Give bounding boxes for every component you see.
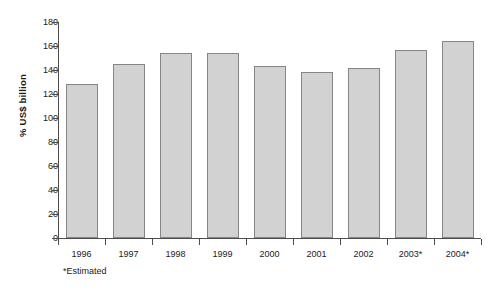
y-axis-title: % US$ billion — [17, 46, 28, 166]
x-axis-tick-mark — [340, 239, 341, 245]
y-axis-tick-mark — [52, 46, 58, 47]
x-axis-tick-label: 1998 — [152, 249, 199, 259]
x-axis-tick-mark — [105, 239, 106, 245]
y-axis-tick: 180 — [0, 22, 58, 23]
x-axis-tick-label: 1997 — [105, 249, 152, 259]
x-axis-tick-mark — [58, 239, 59, 245]
bar-chart: % US$ billion 020406080100120140160180 1… — [0, 0, 501, 291]
bar — [113, 64, 145, 238]
y-axis-tick: 100 — [0, 118, 58, 119]
y-axis-tick-mark — [52, 214, 58, 215]
y-axis-tick-mark — [52, 142, 58, 143]
x-axis-tick-mark — [434, 239, 435, 245]
y-axis-tick: 120 — [0, 94, 58, 95]
x-axis-tick-mark — [199, 239, 200, 245]
x-axis-tick-mark — [246, 239, 247, 245]
bar — [395, 50, 427, 238]
x-axis-tick-label: 1999 — [199, 249, 246, 259]
bar — [207, 53, 239, 238]
y-axis-tick-mark — [52, 190, 58, 191]
bar — [66, 84, 98, 238]
x-axis-tick-mark — [481, 239, 482, 245]
x-axis-tick-label: 2003* — [387, 249, 434, 259]
x-axis-tick-mark — [387, 239, 388, 245]
x-axis-tick-label: 2001 — [293, 249, 340, 259]
y-axis-tick-mark — [52, 22, 58, 23]
y-axis-tick: 160 — [0, 46, 58, 47]
y-axis-tick-mark — [52, 118, 58, 119]
x-axis-line — [58, 238, 481, 239]
y-axis-tick-mark — [52, 166, 58, 167]
y-axis-tick-mark — [52, 70, 58, 71]
y-axis-tick: 20 — [0, 214, 58, 215]
x-axis-tick-mark — [293, 239, 294, 245]
y-axis-tick: 140 — [0, 70, 58, 71]
x-axis-tick-label: 1996 — [58, 249, 105, 259]
y-axis-tick: 80 — [0, 142, 58, 143]
bar — [442, 41, 474, 238]
bar — [301, 72, 333, 238]
y-axis-tick: 0 — [0, 238, 58, 239]
y-axis-line — [58, 22, 59, 239]
bar — [254, 66, 286, 238]
bar — [348, 68, 380, 238]
y-axis-tick: 60 — [0, 166, 58, 167]
x-axis-tick-mark — [152, 239, 153, 245]
footnote: *Estimated — [63, 266, 107, 276]
y-axis-tick-mark — [52, 94, 58, 95]
x-axis-tick-label: 2002 — [340, 249, 387, 259]
y-axis-tick: 40 — [0, 190, 58, 191]
x-axis-tick-label: 2004* — [434, 249, 481, 259]
bar — [160, 53, 192, 238]
x-axis-tick-label: 2000 — [246, 249, 293, 259]
